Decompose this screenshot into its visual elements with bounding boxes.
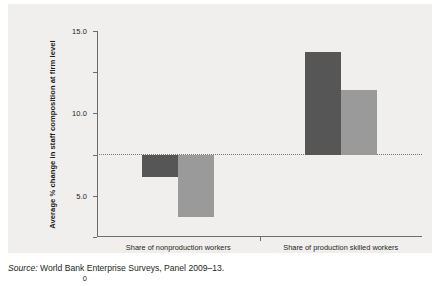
y-axis-tick-label: 5.0 bbox=[76, 191, 87, 200]
source-label: Source: bbox=[8, 263, 38, 273]
figure: Average % change in staff composition at… bbox=[0, 0, 436, 286]
bar bbox=[142, 155, 178, 177]
y-axis-tick-mark: −10.0 bbox=[93, 237, 97, 238]
y-axis-tick-label: 0 bbox=[83, 274, 87, 283]
y-axis-title: Average % change in staff composition at… bbox=[46, 31, 58, 237]
y-axis-tick-label: 15.0 bbox=[72, 27, 87, 36]
bar bbox=[341, 90, 377, 155]
y-axis-tick-mark: 0 bbox=[93, 155, 97, 156]
bar bbox=[178, 155, 214, 218]
source-text: World Bank Enterprise Surveys, Panel 200… bbox=[38, 263, 225, 273]
y-axis-title-text: Average % change in staff composition at… bbox=[48, 40, 57, 228]
y-axis-tick-mark: 5.0 bbox=[93, 113, 97, 114]
y-axis-tick-mark: 10.0 bbox=[93, 72, 97, 73]
bar bbox=[305, 52, 341, 154]
x-axis-category-label: Share of nonproduction workers bbox=[126, 243, 231, 252]
x-axis-category-label: Share of production skilled workers bbox=[283, 243, 398, 252]
y-axis-tick-label: 10.0 bbox=[72, 109, 87, 118]
x-axis-group-separator bbox=[260, 236, 261, 241]
y-axis-tick-mark: 15.0 bbox=[93, 31, 97, 32]
y-axis-tick-mark: −5.0 bbox=[93, 196, 97, 197]
y-axis-line bbox=[97, 31, 98, 237]
plot-area: 15.010.05.00−5.0−10.0 Share of nonproduc… bbox=[97, 31, 422, 237]
source-note: Source: World Bank Enterprise Surveys, P… bbox=[8, 263, 224, 273]
chart-panel: Average % change in staff composition at… bbox=[8, 4, 432, 253]
